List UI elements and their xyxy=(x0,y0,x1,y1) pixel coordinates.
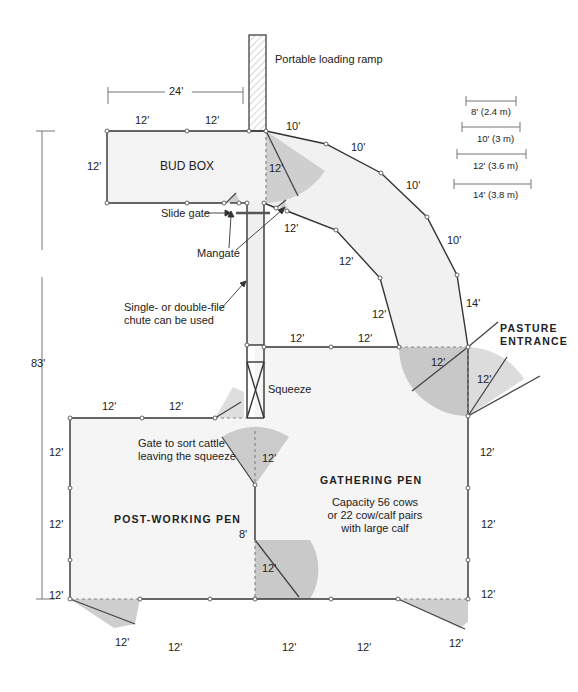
loading-ramp xyxy=(249,35,266,131)
dim-gather-right-3: 12' xyxy=(481,588,495,601)
mangate-label: Mangate xyxy=(197,247,240,260)
dim-alley-outer-2: 10' xyxy=(351,141,365,154)
dim-gather-top-2: 12' xyxy=(358,332,372,345)
sort-gate-note-line2: leaving the squeeze xyxy=(138,450,236,463)
dim-bud-top-1: 12' xyxy=(135,114,149,127)
pasture-entrance-line1: PASTURE xyxy=(500,322,558,335)
capacity-line2: or 22 cow/calf pairs xyxy=(310,509,440,522)
dim-gather-top-1: 12' xyxy=(290,332,304,345)
dim-divider: 8' xyxy=(239,528,247,541)
dim-divider-gate: 12' xyxy=(262,562,276,575)
dim-bud-gate: 12' xyxy=(269,162,283,175)
dim-bud-top-2: 12' xyxy=(205,114,219,127)
dim-alley-outer-1: 10' xyxy=(286,120,300,133)
overall-height-label: 83' xyxy=(31,357,45,370)
chute-fill xyxy=(247,203,264,345)
dim-pasture-gate-2: 12' xyxy=(477,373,491,386)
dim-gather-right-1: 12' xyxy=(480,446,494,459)
loading-ramp-label: Portable loading ramp xyxy=(275,53,383,66)
dim-bud-left: 12' xyxy=(87,160,101,173)
dim-sort-gate: 12' xyxy=(262,452,276,465)
dim-bottom-gate-left: 12' xyxy=(115,636,129,649)
dim-bottom-1: 12' xyxy=(168,641,182,654)
scale-14ft: 14' (3.8 m) xyxy=(473,188,518,201)
scale-8ft: 8' (2.4 m) xyxy=(471,105,511,118)
scale-12ft: 12' (3.6 m) xyxy=(473,159,518,172)
dim-alley-inner-2: 12' xyxy=(339,255,353,268)
dim-alley-outer-5: 14' xyxy=(466,297,480,310)
squeeze-label: Squeeze xyxy=(268,383,311,396)
scale-10ft: 10' (3 m) xyxy=(477,132,514,145)
dim-bottom-gate-right: 12' xyxy=(449,637,463,650)
dim-alley-outer-3: 10' xyxy=(406,179,420,192)
bud-box-label: BUD BOX xyxy=(160,160,214,173)
dim-post-top-2: 12' xyxy=(169,400,183,413)
dim-bottom-3: 12' xyxy=(357,641,371,654)
dim-post-left-2: 12' xyxy=(49,518,63,531)
capacity-line3: with large calf xyxy=(310,522,440,535)
dim-alley-outer-4: 10' xyxy=(447,234,461,247)
sort-gate-note-line1: Gate to sort cattle xyxy=(138,437,225,450)
dim-bottom-2: 12' xyxy=(282,641,296,654)
pasture-entrance-line2: ENTRANCE xyxy=(500,335,568,348)
capacity-line1: Capacity 56 cows xyxy=(310,496,440,509)
dim-post-left-3: 12' xyxy=(49,589,63,602)
slide-gate-label: Slide gate xyxy=(161,207,210,220)
dim-alley-inner-1: 12' xyxy=(284,222,298,235)
dim-alley-inner-3: 12' xyxy=(372,308,386,321)
gathering-pen-label: GATHERING PEN xyxy=(320,474,422,487)
chute-note-line1: Single- or double-file xyxy=(124,301,225,314)
top-dimension-label: 24' xyxy=(169,85,183,98)
dim-post-left-1: 12' xyxy=(49,446,63,459)
dim-gather-right-2: 12' xyxy=(481,518,495,531)
chute-note-line2: chute can be used xyxy=(124,314,214,327)
dim-post-top-1: 12' xyxy=(102,400,116,413)
post-working-pen-label: POST-WORKING PEN xyxy=(114,513,241,526)
dim-pasture-gate-1: 12' xyxy=(431,356,445,369)
